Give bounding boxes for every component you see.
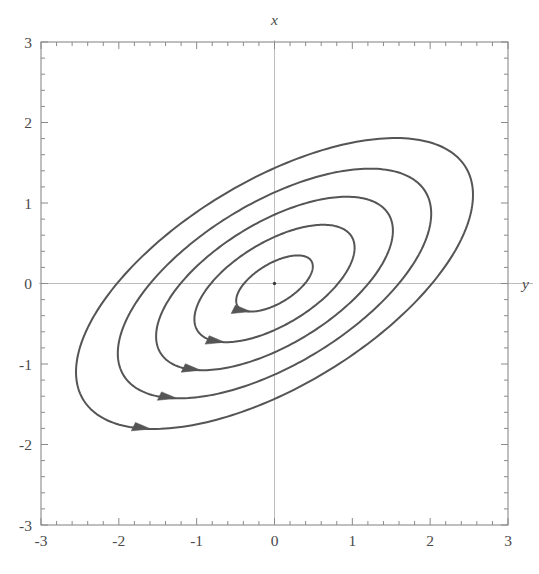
x-tick-label: 3 xyxy=(504,532,512,549)
y-tick-label: 2 xyxy=(24,114,32,131)
plot-canvas: -3-2-101233210-1-2-3xy xyxy=(0,0,539,574)
x-tick-label: 1 xyxy=(348,532,356,549)
vertical-axis-label: x xyxy=(270,11,278,28)
y-tick-label: -2 xyxy=(19,436,32,453)
x-tick-label: 2 xyxy=(426,532,434,549)
y-tick-label: -3 xyxy=(19,517,32,534)
x-tick-label: 0 xyxy=(271,532,279,549)
y-tick-label: 3 xyxy=(24,34,32,51)
horizontal-axis-label: y xyxy=(520,275,529,292)
y-tick-label: -1 xyxy=(19,356,32,373)
x-tick-label: -1 xyxy=(190,532,203,549)
x-tick-label: -2 xyxy=(112,532,125,549)
origin-point xyxy=(273,282,276,285)
phase-portrait-figure: -3-2-101233210-1-2-3xy xyxy=(0,0,539,574)
y-tick-label: 1 xyxy=(24,195,32,212)
y-tick-label: 0 xyxy=(24,275,32,292)
x-tick-label: -3 xyxy=(35,532,48,549)
